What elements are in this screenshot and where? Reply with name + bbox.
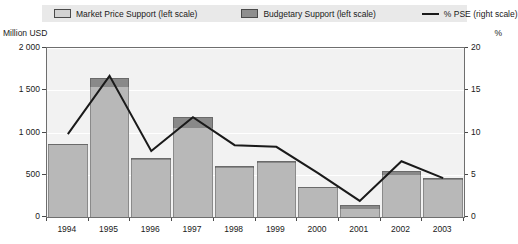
pse-line-layer bbox=[47, 48, 464, 217]
square-swatch-light-icon bbox=[54, 9, 71, 18]
x-axis-tick-label: 1996 bbox=[130, 224, 170, 234]
x-axis-tick-label: 2002 bbox=[380, 224, 420, 234]
left-axis-tick-label: 0 bbox=[35, 211, 40, 221]
x-axis-tick-label: 1999 bbox=[255, 224, 295, 234]
legend-item-pse: % PSE (right scale) bbox=[422, 9, 518, 19]
chart-legend: Market Price Support (left scale) Budget… bbox=[42, 5, 467, 22]
x-axis-tick-label: 2000 bbox=[297, 224, 337, 234]
left-axis-tick-label: 2 000 bbox=[19, 42, 40, 52]
x-axis-tick-label: 2003 bbox=[422, 224, 462, 234]
x-axis-tick-label: 1995 bbox=[89, 224, 129, 234]
legend-label-market-price-support: Market Price Support (left scale) bbox=[76, 9, 197, 19]
legend-item-market-price-support: Market Price Support (left scale) bbox=[54, 9, 197, 19]
left-axis-unit-label: Million USD bbox=[3, 28, 47, 38]
x-axis-tick-label: 2001 bbox=[339, 224, 379, 234]
x-axis-tick-label: 1997 bbox=[172, 224, 212, 234]
right-axis-unit-label: % bbox=[494, 28, 502, 38]
legend-label-budgetary-support: Budgetary Support (left scale) bbox=[263, 9, 375, 19]
left-axis-tick-label: 1 000 bbox=[19, 127, 40, 137]
pse-line-path bbox=[68, 76, 443, 201]
x-axis-tick-label: 1994 bbox=[47, 224, 87, 234]
square-swatch-dark-icon bbox=[241, 9, 258, 18]
x-axis-tick-label: 1998 bbox=[214, 224, 254, 234]
right-axis-tick-label: 5 bbox=[471, 169, 476, 179]
right-axis-tick-label: 20 bbox=[471, 42, 480, 52]
legend-label-pse: % PSE (right scale) bbox=[444, 9, 518, 19]
left-axis-tick-label: 500 bbox=[26, 169, 40, 179]
legend-item-budgetary-support: Budgetary Support (left scale) bbox=[241, 9, 375, 19]
left-axis-tick-label: 1 500 bbox=[19, 84, 40, 94]
right-axis-tick-label: 10 bbox=[471, 127, 480, 137]
line-swatch-icon bbox=[422, 13, 439, 15]
plot-area bbox=[46, 47, 465, 218]
right-axis-tick-label: 15 bbox=[471, 84, 480, 94]
plot-inner bbox=[47, 48, 464, 217]
right-axis-tick-label: 0 bbox=[471, 211, 476, 221]
